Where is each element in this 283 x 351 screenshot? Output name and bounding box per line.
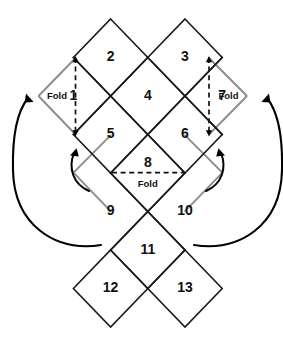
cell-number-12: 12 — [103, 279, 119, 295]
fold-label-left: Fold — [47, 90, 67, 101]
cell-number-1: 1 — [70, 87, 78, 103]
cell-number-13: 13 — [177, 279, 193, 295]
cell-number-5: 5 — [107, 125, 115, 141]
cell-number-8: 8 — [144, 154, 152, 170]
cell-number-10: 10 — [177, 202, 193, 218]
cell-number-2: 2 — [107, 48, 115, 64]
cell-number-9: 9 — [107, 202, 115, 218]
arrow-inner-right-head — [216, 148, 225, 156]
arrow-inner-left-head — [70, 148, 79, 156]
cell-number-6: 6 — [181, 125, 189, 141]
arrow-outer-right-head — [261, 93, 270, 102]
fold-net-diagram: 1 2 3 4 5 6 7 8 9 10 11 12 13 Fold Fold … — [0, 0, 283, 351]
fold-label-right: Fold — [218, 90, 238, 101]
fold-label-center: Fold — [138, 178, 158, 189]
cell-number-11: 11 — [140, 241, 155, 257]
arrow-outer-left-head — [25, 93, 34, 102]
cell-number-3: 3 — [181, 48, 189, 64]
cell-number-4: 4 — [144, 87, 152, 103]
diagram-canvas: 1 2 3 4 5 6 7 8 9 10 11 12 13 Fold Fold … — [0, 0, 283, 351]
